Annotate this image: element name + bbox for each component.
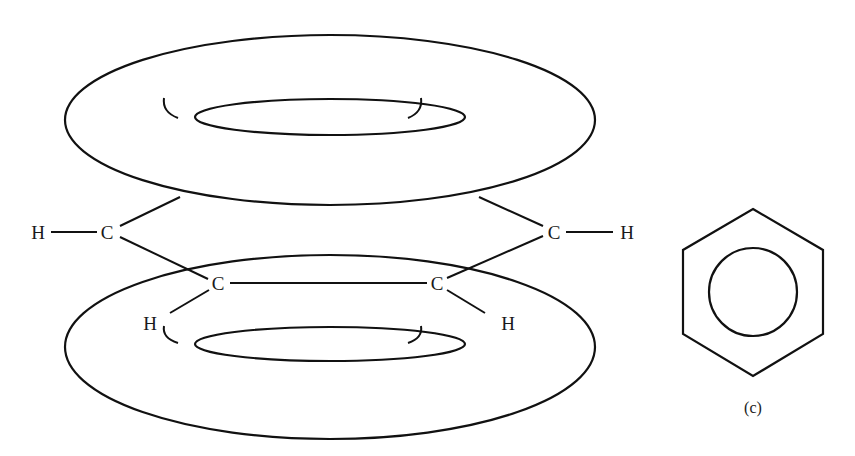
atom-c-right-bottom: C: [431, 273, 444, 294]
bond-c-left-top-to-upper-cloud: [120, 197, 180, 226]
aromatic-circle-icon: [709, 248, 797, 336]
lower-cloud-hole: [195, 327, 465, 361]
atom-c-right-top: C: [548, 222, 561, 243]
upper-cloud-lip-left: [164, 98, 178, 118]
benzene-pi-cloud-diagram: H C C C H H C H (c): [0, 0, 855, 456]
atom-c-left-top: C: [101, 222, 114, 243]
upper-cloud-outer: [65, 35, 595, 205]
bond-c-left-bottom-h: [170, 290, 209, 313]
atom-h-right-bottom: H: [501, 313, 515, 334]
bond-c-right-bottom-to-c-right-top: [447, 236, 543, 278]
hexagon-icon: [683, 209, 823, 376]
benzene-ring-symbol: (c): [683, 209, 823, 417]
bond-c-left-top-to-c-left-bottom: [120, 237, 208, 279]
lower-cloud-lip-left: [164, 326, 178, 343]
atom-h-right-top: H: [620, 222, 634, 243]
lower-cloud-lip-right: [408, 326, 421, 343]
upper-pi-cloud: [65, 35, 595, 205]
ring-caption: (c): [744, 399, 762, 417]
bond-c-right-top-to-upper-cloud: [479, 197, 543, 226]
atom-h-left-bottom: H: [143, 313, 157, 334]
bond-c-right-bottom-h: [447, 290, 485, 313]
atom-h-left-top: H: [31, 222, 45, 243]
upper-cloud-hole: [195, 99, 465, 135]
atom-c-left-bottom: C: [212, 273, 225, 294]
upper-cloud-lip-right: [408, 98, 421, 118]
